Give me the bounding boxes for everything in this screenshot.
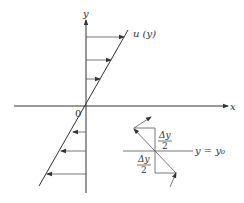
upper-fraction: Δy 2 <box>158 130 172 151</box>
profile-label: u (y) <box>133 28 156 39</box>
element-arm-lower <box>155 151 176 173</box>
velocity-profile-line <box>39 30 128 186</box>
lower-fraction: Δy 2 <box>137 154 151 175</box>
lower-fraction-numerator: Δy <box>137 154 150 164</box>
element-arm-upper <box>134 129 155 151</box>
rotation-arrow-upper <box>134 117 151 128</box>
upper-fraction-denominator: 2 <box>162 141 168 151</box>
rotation-arrow-lower <box>170 173 176 187</box>
rotation-inset: y = y₀ Δy 2 Δy 2 <box>123 117 225 187</box>
lower-fraction-denominator: 2 <box>141 165 147 175</box>
y-axis-label: y <box>82 8 89 19</box>
x-axis-label: x <box>230 101 236 112</box>
velocity-profile-diagram: x y 0 u (y) y = y₀ Δy 2 Δy 2 <box>0 0 244 203</box>
upper-fraction-numerator: Δy <box>158 130 171 140</box>
reference-line-label: y = y₀ <box>194 145 225 156</box>
